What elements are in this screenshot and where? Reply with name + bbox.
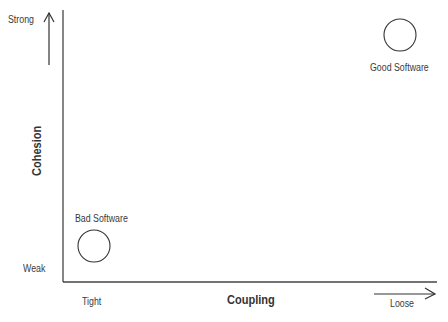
arrow-up-icon [44, 13, 54, 65]
diagram-canvas [0, 0, 448, 322]
x-axis-title: Coupling [227, 292, 275, 307]
x-axis-right-label: Loose [390, 298, 414, 309]
good-software-marker [384, 19, 416, 51]
y-axis-top-label: Strong [8, 14, 34, 25]
y-axis-bottom-label: Weak [23, 263, 45, 274]
y-axis-title: Cohesion [29, 126, 44, 176]
good-software-label: Good Software [370, 62, 429, 73]
bad-software-marker [78, 230, 110, 262]
x-axis-left-label: Tight [82, 296, 101, 307]
bad-software-label: Bad Software [75, 213, 128, 224]
